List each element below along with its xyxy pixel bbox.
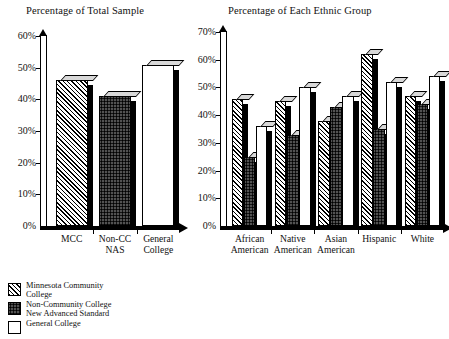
y-axis-tick-label: 40% [198, 110, 216, 120]
x-axis-category-label: White [401, 234, 444, 245]
chart-title-ethnic-group: Percentage of Each Ethnic Group [228, 5, 372, 16]
bar [361, 54, 373, 226]
y-axis-spine [220, 31, 227, 226]
bar [405, 96, 417, 226]
x-axis-category-label: NativeAmerican [271, 234, 314, 255]
y-axis-labels-left: 0%10%20%30%40%50%60% [6, 26, 36, 271]
x-axis-category-label: Non-CCNAS [93, 234, 136, 255]
legend-swatch-gc [8, 321, 21, 334]
bar [330, 107, 342, 226]
bar [373, 129, 385, 226]
bar [142, 65, 174, 227]
bar [386, 82, 398, 226]
bar [99, 96, 131, 226]
y-axis-tick-label: 10% [18, 189, 36, 199]
legend-label: Minnesota CommunityCollege [26, 282, 103, 299]
legend-item: Minnesota CommunityCollege [8, 282, 178, 299]
y-axis-tick-label: 10% [198, 193, 216, 203]
y-axis-tick-label: 0% [23, 221, 36, 231]
x-axis-baseline [220, 226, 444, 230]
x-axis-category-label: AsianAmerican [314, 234, 357, 255]
legend-label: Non-Community CollegeNew Advanced Standa… [26, 301, 111, 318]
y-axis-tick-label: 20% [18, 158, 36, 168]
y-axis-tick-label: 30% [18, 126, 36, 136]
bar [429, 76, 441, 226]
y-axis-tick-label: 60% [198, 55, 216, 65]
bar [287, 135, 299, 226]
bar [299, 87, 311, 226]
legend-swatch-noncc [8, 302, 21, 315]
y-axis-labels-right: 0%10%20%30%40%50%60%70% [186, 26, 216, 271]
y-axis-tick-label: 60% [18, 31, 36, 41]
y-axis-tick-label: 50% [18, 63, 36, 73]
y-axis-spine [40, 35, 47, 226]
legend-swatch-mcc [8, 283, 21, 296]
x-axis-category-label: MCC [50, 234, 93, 245]
y-axis-tick-label: 0% [203, 221, 216, 231]
y-axis-tick-label: 30% [198, 138, 216, 148]
legend-item: Non-Community CollegeNew Advanced Standa… [8, 301, 178, 318]
bar [56, 80, 88, 226]
legend: Minnesota CommunityCollegeNon-Community … [8, 282, 178, 336]
bar [318, 121, 330, 226]
y-axis-tick-label: 40% [18, 94, 36, 104]
y-axis-tick-label: 20% [198, 166, 216, 176]
x-axis-category-label: AfricanAmerican [228, 234, 271, 255]
bar [244, 157, 256, 226]
bar [256, 126, 268, 226]
bar [417, 104, 429, 226]
x-axis-baseline [40, 226, 180, 230]
bar [232, 99, 244, 226]
chart-panel-ethnic-group: 0%10%20%30%40%50%60%70% AfricanAmericanN… [186, 26, 448, 271]
chart-title-total-sample: Percentage of Total Sample [26, 5, 144, 16]
y-axis-tick-label: 50% [198, 82, 216, 92]
legend-label: General College [26, 320, 81, 329]
bar [275, 101, 287, 226]
chart-panel-total-sample: 0%10%20%30%40%50%60% MCCNon-CCNASGeneral… [6, 26, 186, 271]
x-axis-category-label: GeneralCollege [137, 234, 180, 255]
figure-root: Percentage of Total Sample Percentage of… [0, 0, 449, 339]
bar [342, 96, 354, 226]
x-axis-category-label: Hispanic [358, 234, 401, 245]
legend-item: General College [8, 320, 178, 334]
y-axis-tick-label: 70% [198, 27, 216, 37]
